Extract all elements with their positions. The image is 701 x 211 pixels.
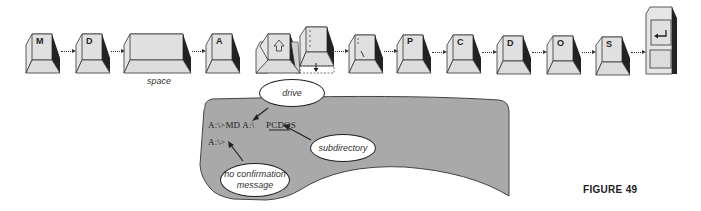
callout-subdirectory: subdirectory	[310, 134, 376, 162]
screen-panel	[0, 0, 701, 211]
callout-no-confirmation: no confirmation message	[220, 163, 290, 197]
callout-drive-text: drive	[282, 88, 302, 99]
callout-drive: drive	[259, 79, 325, 107]
callout-no-confirmation-text-2: message	[237, 180, 274, 191]
command-line-prefix: A:\>MD A:\	[208, 120, 254, 130]
callout-subdirectory-text: subdirectory	[318, 143, 367, 154]
callout-no-confirmation-text: no confirmation	[224, 169, 286, 180]
figure-label: FIGURE 49	[583, 184, 637, 195]
command-line-directory: PCDOS	[266, 120, 296, 130]
command-prompt: A:\>	[208, 137, 225, 147]
